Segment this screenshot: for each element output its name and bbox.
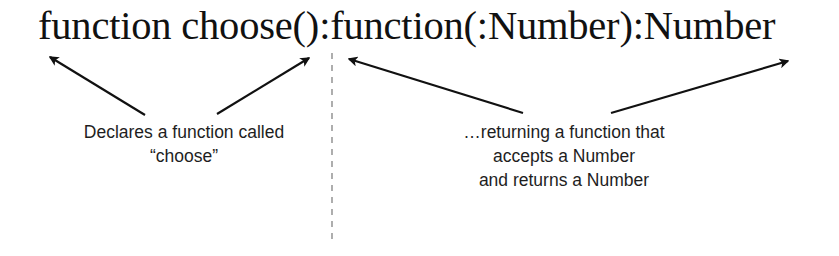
annotation-line: Declares a function called [68,120,300,144]
arrow-left-outer-icon [50,57,145,115]
arrow-right-inner-icon [349,59,523,113]
arrow-left-inner-icon [217,58,309,114]
annotation-line: “choose” [68,144,300,168]
arrow-right-outer-icon [611,61,788,113]
annotation-line: …returning a function that [440,120,688,144]
arrow-to-return-function [349,59,523,113]
arrow-to-choose-parens [217,58,309,114]
annotation-line: and returns a Number [440,168,688,192]
annotation-declares-function: Declares a function called “choose” [68,120,300,168]
arrow-to-function-keyword [50,57,145,115]
annotation-line: accepts a Number [440,144,688,168]
arrow-to-return-number [611,61,788,113]
annotation-returning-function: …returning a function that accepts a Num… [440,120,688,192]
